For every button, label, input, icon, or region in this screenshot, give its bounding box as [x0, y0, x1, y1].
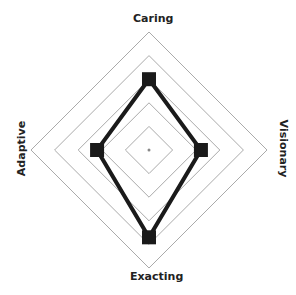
axis-label-exacting: Exacting [130, 270, 183, 283]
data-point-marker [194, 143, 208, 157]
data-point-marker [142, 72, 156, 86]
data-point-marker [90, 143, 104, 157]
radar-chart [0, 0, 296, 295]
data-point-marker [142, 230, 156, 244]
axis-label-caring: Caring [133, 12, 173, 25]
axis-label-adaptive: Adaptive [15, 121, 28, 176]
axis-label-visionary: Visionary [277, 120, 290, 178]
